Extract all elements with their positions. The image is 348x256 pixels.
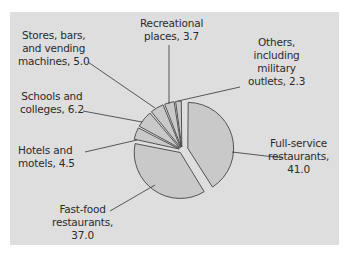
leader-schools xyxy=(83,111,142,122)
label-others: Others, including military outlets, 2.3 xyxy=(248,36,305,88)
label-hotels: Hotels and motels, 4.5 xyxy=(18,144,75,170)
label-recreational: Recreational places, 3.7 xyxy=(140,17,203,43)
label-full-service: Full-service restaurants, 41.0 xyxy=(268,137,329,176)
label-fast-food: Fast-food restaurants, 37.0 xyxy=(52,203,113,242)
leader-stores xyxy=(88,62,155,108)
pie-slice-full-service-restaurants xyxy=(188,102,234,187)
leader-hotels xyxy=(85,140,137,152)
label-schools: Schools and colleges, 6.2 xyxy=(20,90,84,116)
leader-fast-food xyxy=(110,185,155,211)
label-stores: Stores, bars, and vending machines, 5.0 xyxy=(18,29,89,68)
pie-slices xyxy=(134,101,233,198)
leader-others xyxy=(178,87,240,101)
